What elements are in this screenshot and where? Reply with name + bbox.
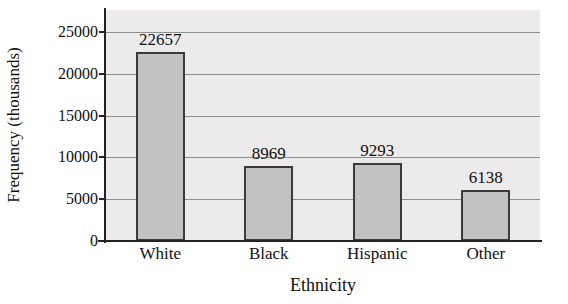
bar-chart: Frequency (thousands) 050001000015000200… [0, 0, 568, 304]
y-axis-tick-label: 25000 [26, 24, 98, 40]
bar [244, 166, 293, 241]
x-axis-category-label: White [100, 245, 220, 262]
bar-value-label: 8969 [219, 145, 319, 162]
bar [461, 190, 510, 241]
bar-value-label: 9293 [327, 142, 427, 159]
y-axis-tick-label: 15000 [26, 108, 98, 124]
y-axis-tick-label: 20000 [26, 66, 98, 82]
bar-value-label: 6138 [436, 169, 536, 186]
x-axis-line [98, 240, 542, 242]
x-axis-category-label: Hispanic [317, 245, 437, 262]
y-axis-line [104, 8, 106, 243]
bar [136, 52, 185, 241]
bar [353, 163, 402, 241]
y-axis-tick-labels: 0500010000150002000025000 [22, 0, 98, 304]
x-axis-category-label: Black [209, 245, 329, 262]
x-axis-category-label: Other [426, 245, 546, 262]
bar-value-label: 22657 [110, 31, 210, 48]
x-axis-title: Ethnicity [106, 275, 540, 296]
y-axis-tick-label: 0 [26, 233, 98, 249]
y-axis-tick-label: 10000 [26, 149, 98, 165]
y-axis-tick-label: 5000 [26, 191, 98, 207]
